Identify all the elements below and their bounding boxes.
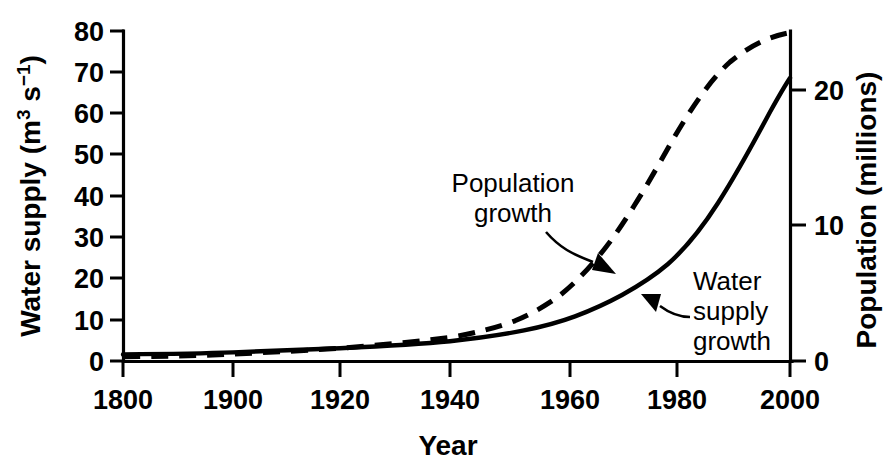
water-supply-growth-label-line1: Water	[693, 266, 762, 296]
line-chart: 80 70 60 50 40 30 20 10 0 20 10 0	[0, 0, 896, 471]
x-tick-label: 1940	[420, 385, 480, 415]
population-growth-annotation: Population growth	[452, 168, 616, 274]
y-axis-left-title: Water supply (m3 s−1)	[13, 55, 46, 337]
water-supply-growth-label-line3: growth	[693, 326, 771, 356]
population-growth-label-line1: Population	[452, 168, 575, 198]
y-tick-label-left: 60	[74, 99, 104, 129]
y-axis-right-tick-labels: 20 10 0	[814, 76, 844, 377]
y-tick-label-left: 0	[89, 347, 104, 377]
y-tick-label-left: 10	[74, 306, 104, 336]
x-tick-label: 1920	[310, 385, 370, 415]
water-supply-growth-leader	[660, 306, 690, 317]
y-axis-left-title-sup-minus1: −1	[13, 64, 34, 86]
chart-figure: 80 70 60 50 40 30 20 10 0 20 10 0	[0, 0, 896, 471]
y-axis-left-title-main: Water supply (m	[15, 120, 46, 337]
water-supply-growth-annotation: Water supply growth	[641, 266, 771, 356]
x-axis-tick-labels: 1800 1900 1920 1940 1960 1980 2000	[93, 385, 820, 415]
y-tick-label-left: 40	[74, 182, 104, 212]
y-tick-label-right: 10	[814, 211, 844, 241]
population-growth-leader	[546, 232, 593, 262]
water-supply-growth-label-line2: supply	[693, 296, 768, 326]
series-water-supply-growth	[123, 78, 790, 354]
x-tick-label: 2000	[760, 385, 820, 415]
x-tick-label: 1960	[540, 385, 600, 415]
y-axis-left-title-mid: s	[15, 86, 46, 109]
svg-text:Water supply (m3 s−1): Water supply (m3 s−1)	[13, 55, 46, 337]
y-tick-label-left: 70	[74, 58, 104, 88]
y-tick-label-left: 50	[74, 140, 104, 170]
y-axis-right-title-text: Population (millions)	[851, 72, 882, 349]
y-tick-label-right: 20	[814, 76, 844, 106]
y-axis-left-title-sup-3: 3	[13, 110, 34, 121]
y-tick-label-left: 30	[74, 223, 104, 253]
water-supply-growth-arrowhead	[641, 294, 661, 312]
y-tick-label-left: 80	[74, 17, 104, 47]
y-axis-right-ticks	[790, 90, 806, 361]
y-tick-label-right: 0	[814, 347, 829, 377]
x-tick-label: 1900	[203, 385, 263, 415]
population-growth-label-line2: growth	[474, 198, 552, 228]
x-axis-title: Year	[418, 430, 477, 461]
y-axis-left-tick-labels: 80 70 60 50 40 30 20 10 0	[74, 17, 104, 377]
y-axis-right-title: Population (millions)	[851, 72, 882, 349]
x-tick-label: 1800	[93, 385, 153, 415]
y-axis-left-title-end: )	[15, 55, 46, 64]
population-growth-arrowhead	[592, 253, 616, 274]
x-axis-ticks	[123, 361, 790, 377]
y-tick-label-left: 20	[74, 264, 104, 294]
x-tick-label: 1980	[647, 385, 707, 415]
